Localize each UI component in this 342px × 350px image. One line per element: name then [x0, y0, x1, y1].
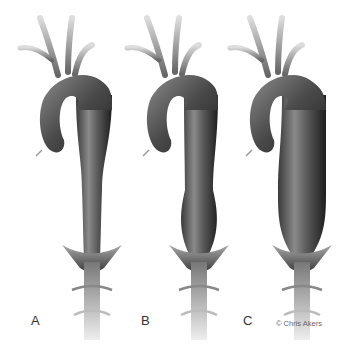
coronary-stub [36, 150, 42, 156]
left-subclavian-branch [285, 45, 302, 74]
abdominal-aorta [191, 262, 207, 340]
panel-label-b: B [141, 313, 150, 328]
descending-aorta [181, 95, 218, 258]
aorta-panel-c [230, 18, 332, 340]
panel-label-a: A [31, 313, 40, 328]
aorta-panel-a [20, 18, 122, 340]
descending-aorta [278, 95, 326, 258]
left-subclavian-branch [75, 45, 92, 74]
subclavian-branch [230, 48, 262, 61]
coronary-stub [246, 150, 252, 156]
abdominal-aorta [84, 262, 100, 340]
carotid-branch [175, 18, 179, 72]
brachiocephalic-branch [250, 18, 268, 75]
coronary-stub [143, 150, 149, 156]
carotid-branch [278, 18, 282, 72]
abdominal-aorta [294, 262, 310, 340]
copyright-credit: © Chris Akers [276, 319, 322, 328]
subclavian-branch [20, 48, 52, 61]
brachiocephalic-branch [40, 18, 58, 75]
aorta-illustration [0, 0, 342, 350]
carotid-branch [68, 18, 72, 72]
descending-aorta [76, 95, 112, 258]
left-subclavian-branch [182, 45, 199, 74]
panel-label-c: C [243, 313, 252, 328]
brachiocephalic-branch [147, 18, 165, 75]
aorta-panel-b [127, 18, 229, 340]
subclavian-branch [127, 48, 159, 61]
